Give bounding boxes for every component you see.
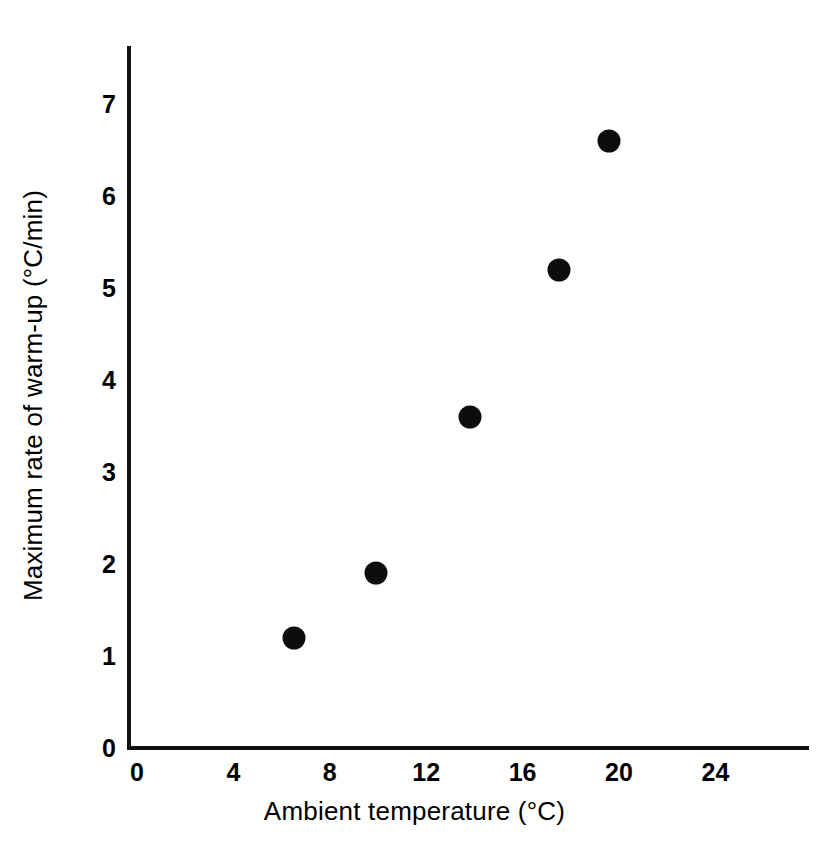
y-axis-line [127, 46, 131, 750]
data-point [458, 405, 481, 428]
x-tick-0: 0 [107, 760, 167, 785]
x-tick-8: 8 [300, 760, 360, 785]
x-tick-4: 4 [203, 760, 263, 785]
y-tick-label: 4 [102, 368, 116, 393]
plot-area: 01234567 04812162024 [0, 0, 829, 859]
x-tick-24: 24 [685, 760, 745, 785]
x-tick-label: 0 [107, 760, 167, 785]
y-tick-label: 7 [102, 92, 116, 117]
x-tick-16: 16 [493, 760, 553, 785]
y-tick-label: 3 [102, 460, 116, 485]
x-axis-title-text: Ambient temperature (°C) [264, 796, 565, 826]
x-tick-label: 8 [300, 760, 360, 785]
y-axis-title: Maximum rate of warm-up (°C/min) [14, 0, 54, 790]
x-tick-label: 24 [685, 760, 745, 785]
x-tick-label: 4 [203, 760, 263, 785]
data-point [364, 562, 387, 585]
y-tick-label: 2 [102, 552, 116, 577]
x-tick-label: 12 [396, 760, 456, 785]
y-axis-title-text: Maximum rate of warm-up (°C/min) [19, 189, 50, 600]
scatter-plot-figure: 01234567 04812162024 Maximum rate of war… [0, 0, 829, 859]
x-tick-12: 12 [396, 760, 456, 785]
data-point [598, 129, 621, 152]
x-tick-label: 20 [589, 760, 649, 785]
data-point [282, 626, 305, 649]
y-tick-label: 0 [102, 736, 116, 761]
x-tick-20: 20 [589, 760, 649, 785]
x-tick-label: 16 [493, 760, 553, 785]
y-tick-label: 6 [102, 184, 116, 209]
x-axis-title: Ambient temperature (°C) [0, 796, 829, 827]
data-point [547, 258, 570, 281]
x-axis-line [127, 746, 809, 750]
y-tick-label: 1 [102, 644, 116, 669]
y-tick-label: 5 [102, 276, 116, 301]
